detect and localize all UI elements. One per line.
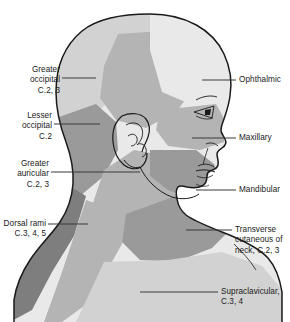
label-ophthalmic: Ophthalmic [239,75,290,85]
label-mandibular: Mandibular [239,185,289,195]
dermatome-head-neck-figure: Greater occipital C.2, 3 Lesser occipita… [0,0,290,322]
label-supraclavicular: Supraclavicular, C.3, 4 [221,287,290,308]
eye-pupil [205,109,211,115]
label-transverse-cutaneous-neck: Transverse cutaneous of neck, C.2, 3 [235,225,290,256]
label-greater-occipital: Greater occipital C.2, 3 [4,65,60,96]
label-dorsal-rami: Dorsal rami C.3, 4, 5 [1,219,46,240]
region-maxillary [156,104,226,150]
label-greater-auricular: Greater auricular C.2, 3 [4,159,49,190]
label-lesser-occipital: Lesser occipital C.2 [4,111,52,142]
region-ophthalmic [150,8,246,104]
label-maxillary: Maxillary [239,133,287,143]
